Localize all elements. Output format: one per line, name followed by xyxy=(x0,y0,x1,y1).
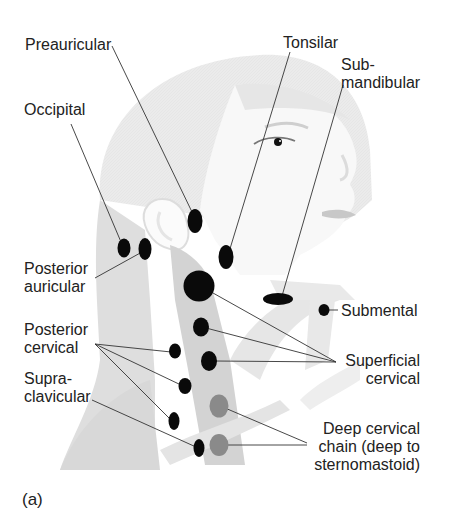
eye xyxy=(274,138,282,146)
node-preauricular xyxy=(188,209,203,233)
label-posterior-cervical-2: cervical xyxy=(24,339,78,356)
label-superficial-cervical-2: cervical xyxy=(366,370,420,387)
node-submandibular xyxy=(263,293,293,305)
label-tonsilar: Tonsilar xyxy=(283,34,339,51)
node-occipital xyxy=(118,239,131,258)
label-deep-cervical-3: sternomastoid) xyxy=(314,456,420,473)
label-supraclavicular-2: clavicular xyxy=(24,388,91,405)
label-posterior-cervical-1: Posterior xyxy=(24,321,89,338)
label-posterior-auricular-2: auricular xyxy=(24,278,86,295)
node-submental xyxy=(319,304,330,316)
node-deep-cervical-1 xyxy=(210,395,229,418)
node-deep-cervical-2 xyxy=(210,434,229,456)
panel-label: (a) xyxy=(22,490,43,509)
label-submandibular-2: mandibular xyxy=(341,74,421,91)
node-posterior-auricular xyxy=(139,238,152,260)
node-superficial-cervical-large xyxy=(184,271,215,302)
node-posterior-cervical-1 xyxy=(169,344,181,359)
label-posterior-auricular-1: Posterior xyxy=(24,260,89,277)
label-supraclavicular-1: Supra- xyxy=(24,370,72,387)
node-posterior-cervical-2 xyxy=(179,378,192,394)
label-occipital: Occipital xyxy=(24,101,85,118)
node-superficial-cervical-3 xyxy=(201,351,217,371)
label-submandibular-1: Sub- xyxy=(341,56,375,73)
label-superficial-cervical-1: Superficial xyxy=(345,352,420,369)
label-deep-cervical-1: Deep cervical xyxy=(323,420,420,437)
label-preauricular: Preauricular xyxy=(25,36,112,53)
node-posterior-cervical-3 xyxy=(169,412,180,430)
lymph-node-diagram: Preauricular Occipital Tonsilar Sub- man… xyxy=(0,0,453,511)
label-deep-cervical-2: chain (deep to xyxy=(319,438,421,455)
label-submental: Submental xyxy=(341,302,418,319)
node-tonsilar xyxy=(219,245,234,269)
node-supraclavicular xyxy=(194,439,205,457)
eye-highlight xyxy=(279,140,281,142)
node-superficial-cervical-2 xyxy=(193,318,209,337)
